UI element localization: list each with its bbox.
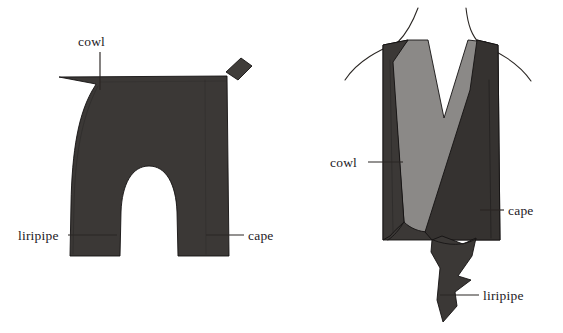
flat-pattern-panel: cowl liripipe cape: [18, 34, 274, 256]
label-text-cape-left: cape: [248, 228, 274, 243]
liripipe-shape: [431, 236, 476, 322]
figure-root: Cowl, cape and liripipe hood constructio…: [0, 0, 563, 333]
worn-garment-panel: cowl cape liripipe: [330, 8, 534, 322]
pattern-main-shape: [59, 76, 229, 256]
label-text-liripipe-left: liripipe: [18, 228, 59, 243]
label-text-liripipe-right: liripipe: [483, 288, 524, 303]
neck-right-outline: [466, 8, 480, 44]
label-text-cowl-right: cowl: [330, 155, 357, 170]
neck-left-outline: [398, 8, 418, 42]
label-text-cape-right: cape: [508, 203, 534, 218]
pattern-tab-shape: [226, 58, 252, 80]
label-text-cowl-left: cowl: [78, 34, 105, 49]
garment-diagram-svg: Cowl, cape and liripipe hood constructio…: [0, 0, 563, 333]
